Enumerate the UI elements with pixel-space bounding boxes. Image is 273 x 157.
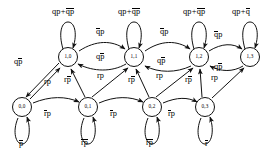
transition-label-0-1-to-1-0: rp xyxy=(64,76,71,84)
transition-label-0-2-to-1-1: rp xyxy=(128,76,135,84)
state-node-1-2[interactable]: 1,2 xyxy=(189,47,209,67)
transition-label-self-loop-0-1: rp xyxy=(81,139,88,147)
state-node-1-0[interactable]: 1,0 xyxy=(58,47,78,67)
transition-label-self-loop-0-3: r xyxy=(205,140,208,148)
arc-s02-s11 xyxy=(136,69,149,97)
state-label: 0,0 xyxy=(19,104,26,109)
transition-label-self-loop-0-2: rp xyxy=(146,139,153,147)
state-node-0-0[interactable]: 0,0 xyxy=(12,97,32,117)
arc-s11-s10 xyxy=(78,64,126,70)
transition-label-1-2-to-1-3: qp xyxy=(214,31,222,39)
transition-label-0-0-to-1-0: rp xyxy=(44,78,51,86)
state-diagram-canvas: 1,0 1,1 1,2 1,3 0,0 0,1 0,2 0,3 qp+qp qp… xyxy=(0,0,273,157)
transition-label-0-3-to-1-2: rp xyxy=(185,76,192,84)
arc-s03-s12 xyxy=(200,69,202,97)
arc-s01-s02 xyxy=(99,98,143,103)
transition-label-1-1-to-1-2: qp xyxy=(160,28,168,36)
state-node-1-3[interactable]: 1,3 xyxy=(240,47,260,67)
transition-label-self-loop-1-2: qp+qp xyxy=(183,8,205,16)
arc-s00-s01 xyxy=(33,98,79,103)
self-loop-s10 xyxy=(61,22,76,49)
self-loop-s13 xyxy=(243,22,258,49)
transition-label-1-0-to-0-0: qp xyxy=(14,58,22,66)
state-label: 1,2 xyxy=(196,54,203,59)
state-label: 0,2 xyxy=(149,104,156,109)
state-label: 0,3 xyxy=(202,104,209,109)
state-node-0-1[interactable]: 0,1 xyxy=(78,97,98,117)
state-label: 1,0 xyxy=(65,54,72,59)
arc-s11-s12 xyxy=(145,42,190,51)
arc-s12-s13 xyxy=(209,45,242,51)
transition-label-1-0-to-1-1: qp xyxy=(96,28,104,36)
transition-label-self-loop-0-0: p xyxy=(19,140,23,148)
transition-label-0-3-to-1-3: rp xyxy=(211,74,218,82)
transition-label-0-1-to-0-2: rp xyxy=(110,110,117,118)
transition-label-1-1-to-1-0: qp xyxy=(96,53,104,61)
transition-label-self-loop-1-3: qp+q xyxy=(232,8,250,16)
self-loop-s12 xyxy=(192,22,207,49)
arc-s10-s00 xyxy=(26,63,59,97)
transition-label-1-2-to-1-1: qp xyxy=(157,57,165,65)
arc-s12-s11 xyxy=(145,66,191,71)
transition-label-self-loop-1-1: qp+qp xyxy=(118,8,140,16)
arc-s01-s10 xyxy=(71,69,85,97)
state-label: 1,3 xyxy=(247,54,254,59)
transition-label-0-1-to-1-1: rp xyxy=(97,72,104,80)
self-loop-s11 xyxy=(127,22,142,49)
state-node-0-2[interactable]: 0,2 xyxy=(142,97,162,117)
state-label: 1,1 xyxy=(131,54,138,59)
transition-label-self-loop-1-0: qp+qp xyxy=(52,8,74,16)
arc-s02-s03 xyxy=(163,98,197,103)
transition-label-0-0-to-0-1: rp xyxy=(44,110,51,118)
transition-arcs xyxy=(0,0,273,157)
arc-s10-s11 xyxy=(79,42,125,51)
state-node-0-3[interactable]: 0,3 xyxy=(195,97,215,117)
transition-label-0-2-to-0-3: rp xyxy=(168,110,175,118)
state-label: 0,1 xyxy=(85,104,92,109)
state-node-1-1[interactable]: 1,1 xyxy=(124,47,144,67)
transition-label-1-3-to-1-2: qp xyxy=(214,63,222,71)
transition-label-0-2-to-1-2: rp xyxy=(156,72,163,80)
